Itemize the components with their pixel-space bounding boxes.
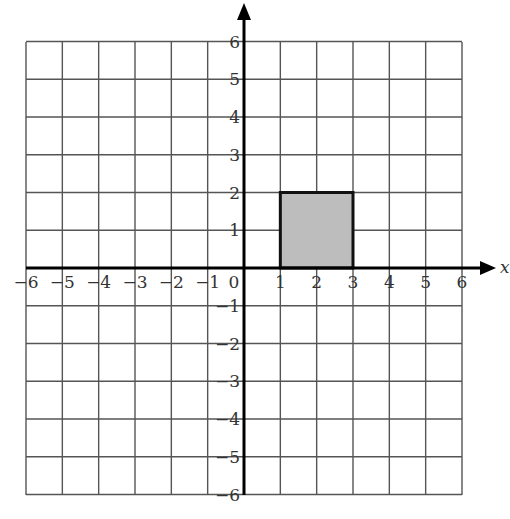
x-tick-label: −6	[13, 272, 38, 292]
y-tick-label: 3	[229, 145, 240, 165]
y-tick-label: −2	[215, 334, 240, 354]
x-tick-label: 6	[457, 272, 468, 292]
coordinate-plane: −6−5−4−3−2−1123456654321−1−2−3−4−5−60x	[0, 0, 510, 519]
x-tick-label: 2	[311, 272, 322, 292]
y-tick-label: 5	[229, 69, 240, 89]
x-tick-label: 3	[348, 272, 359, 292]
y-tick-label: 6	[229, 32, 240, 52]
shaded-rectangle	[280, 193, 353, 269]
y-tick-label: −1	[215, 296, 240, 316]
x-tick-label: −5	[50, 272, 75, 292]
y-tick-label: −6	[215, 485, 240, 505]
x-tick-label: −1	[195, 272, 220, 292]
x-tick-label: 4	[384, 272, 395, 292]
x-tick-label: 1	[275, 272, 286, 292]
x-tick-label: 5	[420, 272, 431, 292]
y-tick-label: 1	[229, 220, 240, 240]
y-tick-label: −4	[215, 409, 240, 429]
y-tick-label: 2	[229, 183, 240, 203]
x-axis-arrow-icon	[480, 261, 496, 275]
y-axis-arrow-icon	[237, 3, 251, 20]
y-tick-label: 4	[229, 107, 240, 127]
x-tick-label: −2	[159, 272, 184, 292]
x-axis-label: x	[500, 257, 510, 277]
origin-label: 0	[229, 272, 240, 292]
x-tick-label: −4	[86, 272, 111, 292]
y-tick-label: −3	[215, 371, 240, 391]
x-tick-label: −3	[122, 272, 147, 292]
y-tick-label: −5	[215, 447, 240, 467]
